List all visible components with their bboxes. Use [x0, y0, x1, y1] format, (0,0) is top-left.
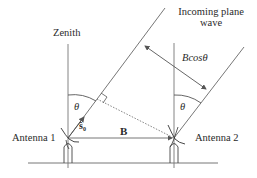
zenith-label: Zenith — [53, 28, 80, 39]
incoming-wave-label-line1: Incoming plane — [172, 6, 250, 17]
right-angle-mark — [101, 93, 107, 103]
source-vector-label: ŝ₀ — [79, 121, 86, 131]
antenna-1-label: Antenna 1 — [12, 133, 55, 144]
antenna-1-icon — [61, 128, 79, 163]
incoming-wave-label-line2: wave — [172, 17, 250, 28]
theta-label-antenna-2: θ — [180, 102, 185, 113]
theta-arc-antenna-1 — [68, 95, 96, 101]
incoming-wave-label: Incoming plane wave — [172, 6, 250, 28]
antenna-2-icon — [168, 125, 185, 163]
path-difference-label: Bcosθ — [182, 53, 208, 64]
antenna-2-label: Antenna 2 — [195, 133, 238, 144]
theta-label-antenna-1: θ — [74, 102, 79, 113]
interferometer-geometry-diagram: Zenith Incoming plane wave Bcosθ θ θ ŝ₀ … — [0, 0, 257, 178]
theta-arc-antenna-2 — [174, 95, 201, 103]
baseline-label: B — [120, 126, 127, 137]
perpendicular-dotted-line — [97, 99, 174, 138]
